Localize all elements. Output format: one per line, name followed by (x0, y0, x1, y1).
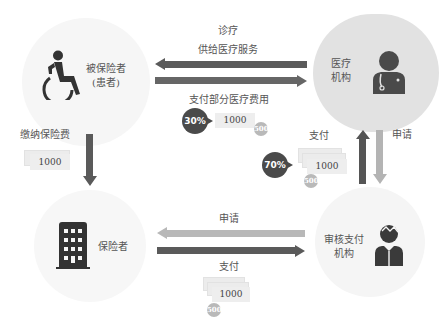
bill-1000-premium: 1000 (30, 154, 70, 170)
arrow-up-dark (356, 130, 370, 184)
building-icon (56, 221, 90, 269)
patient-label-line2: (患者) (86, 76, 126, 90)
review-label-line2: 机构 (324, 247, 364, 261)
medical-label: 医疗 机构 (331, 57, 351, 85)
patient-label: 被保险者 (患者) (86, 62, 126, 90)
apply-bottom-label: 申请 (219, 212, 239, 225)
arrow-down-light (373, 130, 387, 184)
bill-text: 1000 (220, 289, 243, 299)
reviewer-person-icon (374, 222, 404, 266)
treatment-label-line2: 供给医疗服务 (198, 43, 258, 56)
review-label: 审核支付 机构 (324, 233, 364, 261)
arrow-right-dark (155, 75, 307, 87)
bill-1000-bottom: 1000 (212, 287, 250, 302)
coin-500-review: 500 (304, 174, 318, 188)
insurer-node (34, 190, 146, 302)
coin-text: 500 (304, 176, 319, 185)
patient-label-line1: 被保险者 (86, 62, 126, 76)
coin-500-bottom: 500 (207, 303, 221, 317)
arrow-down-dark (83, 134, 97, 186)
coin-500-partial: 500 (254, 122, 268, 136)
bill-1000-partial: 1000 (215, 113, 255, 128)
apply-right-label: 申请 (392, 128, 412, 141)
medical-label-line2: 机构 (331, 71, 351, 85)
coin-text: 500 (207, 305, 222, 314)
bill-text: 1000 (39, 157, 62, 167)
premium-label: 缴纳保险费 (20, 128, 70, 141)
percent-30-text: 30% (184, 116, 206, 126)
review-payment-label: 支付 (309, 129, 329, 142)
medical-label-line1: 医疗 (331, 57, 351, 71)
arrow-left-light (157, 227, 305, 239)
percent-30-badge: 30% (182, 108, 208, 134)
bill-text: 1000 (316, 161, 339, 171)
pay-bottom-label: 支付 (219, 260, 239, 273)
doctor-icon (371, 50, 407, 94)
bill-text: 1000 (224, 115, 247, 125)
wheelchair-icon (42, 50, 86, 100)
insurer-label: 保险者 (98, 240, 128, 253)
review-label-line1: 审核支付 (324, 233, 364, 247)
coin-text: 500 (254, 124, 269, 133)
arrow-right-dark-bottom (157, 245, 305, 257)
treatment-label-line1: 诊疗 (218, 24, 238, 37)
percent-70-text: 70% (264, 160, 286, 170)
partial-payment-label: 支付部分医疗费用 (189, 93, 269, 106)
arrow-left-dark (155, 58, 307, 70)
percent-70-badge: 70% (262, 152, 288, 178)
bill-1000-review: 1000 (307, 159, 347, 174)
